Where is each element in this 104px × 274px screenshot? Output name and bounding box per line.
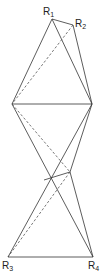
vertex-labels: R1 R2 R3 R4 <box>2 6 99 272</box>
edge-r1-left <box>12 19 52 104</box>
edge-right-r3 <box>8 104 92 257</box>
edge-left-p2-dashed <box>12 104 70 172</box>
edge-p1-p2 <box>44 172 70 180</box>
edge-r1-right <box>52 19 92 104</box>
label-r1: R1 <box>43 6 54 18</box>
label-r4: R4 <box>88 260 99 272</box>
graph-diagram: R1 R2 R3 R4 <box>0 0 104 274</box>
edge-p2-r4 <box>70 172 93 257</box>
edge-r2-right <box>73 25 92 104</box>
edge-r2-left-dashed <box>12 25 73 104</box>
edge-r1-r2 <box>52 19 73 25</box>
label-r3: R3 <box>2 260 13 272</box>
edges <box>8 19 93 257</box>
label-r2: R2 <box>75 18 86 30</box>
edge-left-r4 <box>12 104 93 257</box>
edge-p2-r3-dashed <box>8 172 70 257</box>
